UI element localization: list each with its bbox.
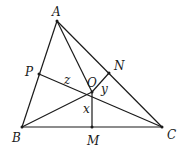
label-a: A (51, 5, 61, 19)
label-c: C (167, 128, 176, 142)
segment-bo (22, 92, 92, 127)
point-m (91, 126, 94, 129)
point-c (161, 126, 164, 129)
point-a (56, 20, 59, 23)
label-m: M (86, 134, 100, 148)
point-p (38, 73, 41, 76)
label-y: y (100, 82, 108, 96)
label-z: z (63, 73, 71, 87)
label-n: N (113, 59, 125, 73)
label-o: O (87, 76, 97, 90)
label-x: x (83, 102, 90, 116)
point-n (108, 72, 111, 75)
point-o (91, 91, 94, 94)
triangle-diagram: A B C O N P M x y z (0, 0, 184, 149)
point-b (21, 126, 24, 129)
label-p: P (24, 65, 34, 79)
label-b: B (11, 131, 21, 145)
